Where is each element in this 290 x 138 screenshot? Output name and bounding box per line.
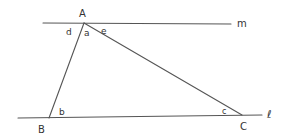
angle-b-label: b <box>59 107 65 117</box>
line-m-label: m <box>237 18 247 29</box>
vertex-b-label: B <box>38 124 45 135</box>
vertex-c-label: C <box>240 121 247 132</box>
line-m <box>43 23 231 24</box>
geometry-diagram: m ℓ A B C d a e b c <box>0 0 290 138</box>
line-l-label: ℓ <box>266 108 272 121</box>
angle-e-label: e <box>101 26 107 36</box>
side-ac <box>84 23 242 115</box>
side-ab <box>49 23 84 118</box>
angle-c-label: c <box>222 107 226 116</box>
angle-d-label: d <box>66 27 72 37</box>
vertex-a-label: A <box>79 8 86 19</box>
angle-a-label: a <box>84 28 90 38</box>
